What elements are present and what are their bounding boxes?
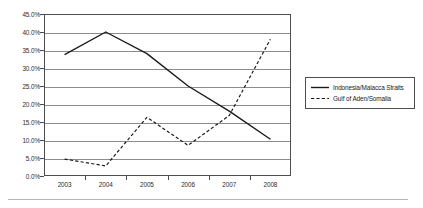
- x-tick-label: 2005: [127, 181, 167, 189]
- legend-item-series-1: Gulf of Aden/Somalia: [311, 93, 410, 104]
- line-chart-figure: 0.0%5.0%10.0%15.0%20.0%25.0%30.0%35.0%40…: [0, 0, 423, 208]
- x-tick-mark: [209, 176, 210, 180]
- x-tick-mark: [168, 176, 169, 180]
- solid-line-icon: [311, 84, 329, 91]
- legend-item-series-0: Indonesia/Malacca Straits: [311, 82, 410, 93]
- x-tick-label: 2003: [45, 181, 85, 189]
- legend-label-series-1: Gulf of Aden/Somalia: [333, 95, 391, 103]
- x-tick-mark: [126, 176, 127, 180]
- x-tick-label: 2006: [168, 181, 208, 189]
- x-tick-label: 2008: [250, 181, 290, 189]
- x-tick-label: 2007: [209, 181, 249, 189]
- dashed-line-icon: [311, 95, 329, 102]
- x-tick-mark: [85, 176, 86, 180]
- legend-label-series-0: Indonesia/Malacca Straits: [333, 84, 404, 92]
- chart-legend: Indonesia/Malacca Straits Gulf of Aden/S…: [305, 77, 415, 109]
- x-tick-label: 2004: [86, 181, 126, 189]
- page-divider: [8, 199, 408, 200]
- x-tick-mark: [250, 176, 251, 180]
